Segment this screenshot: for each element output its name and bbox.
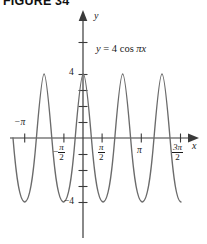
cosine-plot: [0, 0, 207, 244]
x-tick-text-neg-pi: −π: [14, 117, 25, 127]
equation-lhs: y: [96, 43, 101, 54]
x-tick-denominator-neg-pi-over-2: 2: [58, 153, 65, 162]
x-axis-label: x: [192, 140, 196, 151]
x-tick-fraction-pi-over-2: π2: [98, 143, 105, 162]
figure-container: FIGURE 34: [0, 0, 207, 244]
x-tick-label-neg-pi: −π: [14, 117, 25, 127]
equation-amplitude: 4: [112, 43, 117, 54]
y-axis: [79, 10, 88, 238]
x-tick-label-pi: π: [137, 145, 142, 155]
x-tick-fraction-neg-pi-over-2: π2: [58, 143, 65, 162]
y-tick-label-neg4: −4: [64, 196, 74, 206]
x-tick-denominator-3pi-over-2: 2: [172, 153, 183, 162]
equation-argument: πx: [136, 43, 146, 54]
x-tick-label-3pi-over-2: 3π2: [172, 143, 183, 162]
x-tick-denominator-pi-over-2: 2: [98, 153, 105, 162]
equation-label: y = 4 cos πx: [96, 43, 146, 54]
equation-operator: =: [103, 43, 109, 54]
x-tick-label-neg-pi-over-2: −π2: [53, 143, 65, 162]
y-axis-label: y: [94, 10, 98, 21]
y-tick-label-4: 4: [69, 67, 74, 77]
x-tick-fraction-3pi-over-2: 3π2: [172, 143, 183, 162]
x-tick-text-pi: π: [137, 145, 142, 155]
x-tick-label-pi-over-2: π2: [98, 143, 105, 162]
equation-function: cos: [120, 43, 134, 54]
